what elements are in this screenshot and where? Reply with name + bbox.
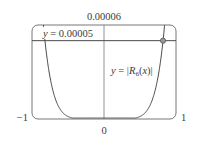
ymax-label: 0.00006	[87, 11, 121, 22]
xmax-label: 1	[181, 112, 186, 123]
intersection-marker	[160, 38, 165, 43]
hline-label: y = 0.00005	[42, 28, 93, 39]
curve-label: y = |R6(x)|	[110, 65, 153, 78]
origin-label: 0	[101, 125, 106, 136]
xmin-label: −1	[17, 112, 28, 123]
graph-figure: y = 0.00005 0.00006 −1 1 0 y = |R6(x)|	[0, 0, 202, 146]
